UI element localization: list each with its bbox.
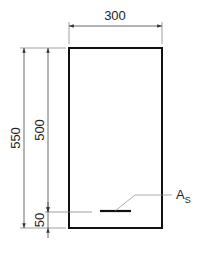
width-label: 300: [104, 8, 126, 23]
cover-dimension: 50: [32, 202, 48, 238]
effective-depth-label: 500: [32, 119, 47, 141]
effective-depth-dimension: 500: [32, 48, 48, 212]
cover-label: 50: [32, 213, 47, 227]
reinforcement-label: AS: [176, 187, 191, 205]
width-dimension: 300: [69, 8, 162, 44]
total-height-dimension: 550: [8, 48, 24, 228]
section-outline: [69, 48, 162, 228]
reinforcement-leader: [115, 195, 172, 211]
total-height-label: 550: [8, 127, 23, 149]
beam-section-diagram: 300 550 500 50 AS: [0, 0, 201, 256]
